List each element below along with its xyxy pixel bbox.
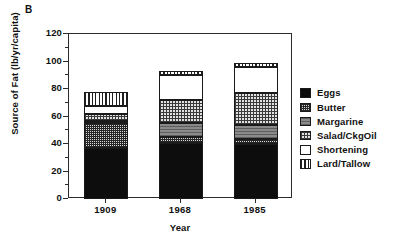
x-tick-mark — [255, 198, 256, 203]
legend-label: Shortening — [317, 145, 368, 155]
panel-letter: B — [25, 5, 32, 15]
bar-segment-salad-ckgoil — [159, 100, 203, 123]
bar-segment-lard-tallow — [159, 71, 203, 75]
x-tick-mark — [105, 198, 106, 203]
x-tick-label: 1985 — [225, 205, 285, 215]
y-tick-label: 40 — [0, 138, 62, 148]
bar-segment-salad-ckgoil — [234, 93, 278, 125]
legend-label: Lard/Tallow — [317, 159, 370, 169]
bar-segment-butter — [159, 137, 203, 143]
plot-area — [68, 33, 292, 198]
bar-segment-shortening — [234, 67, 278, 93]
bar-segment-eggs — [159, 143, 203, 199]
bar-segment-eggs — [234, 144, 278, 199]
y-tick-label: 80 — [0, 83, 62, 93]
legend-item: Salad/CkgOil — [300, 129, 392, 143]
legend-swatch-lard-tallow — [300, 159, 311, 169]
bar-1968 — [159, 34, 203, 199]
legend-item: Shortening — [300, 143, 392, 157]
bar-segment-lard-tallow — [84, 92, 128, 106]
x-tick-mark — [180, 198, 181, 203]
bar-segment-eggs — [84, 148, 128, 199]
legend-swatch-margarine — [300, 117, 311, 127]
legend-label: Margarine — [317, 117, 363, 127]
legend-label: Butter — [317, 103, 346, 113]
legend-item: Lard/Tallow — [300, 157, 392, 171]
legend-item: Eggs — [300, 86, 392, 100]
legend-swatch-butter — [300, 103, 311, 113]
y-tick-mark — [63, 198, 68, 199]
chart-legend: EggsButterMargarineSalad/CkgOilShortenin… — [300, 86, 392, 171]
bar-segment-salad-ckgoil — [84, 114, 128, 121]
legend-item: Margarine — [300, 114, 392, 128]
legend-label: Eggs — [317, 88, 341, 98]
bar-segment-shortening — [84, 106, 128, 114]
legend-item: Butter — [300, 100, 392, 114]
bar-segment-margarine — [159, 123, 203, 137]
y-tick-label: 120 — [0, 28, 62, 38]
bar-1909 — [84, 34, 128, 199]
bar-1985 — [234, 34, 278, 199]
bar-segment-shortening — [159, 75, 203, 100]
legend-swatch-eggs — [300, 88, 311, 98]
bar-segment-margarine — [234, 125, 278, 139]
y-tick-label: 0 — [0, 193, 62, 203]
x-tick-label: 1909 — [75, 205, 135, 215]
bar-segment-lard-tallow — [234, 63, 278, 67]
y-tick-label: 60 — [0, 111, 62, 121]
bar-segment-butter — [234, 139, 278, 145]
y-tick-label: 100 — [0, 56, 62, 66]
bar-segment-margarine — [84, 121, 128, 124]
x-tick-label: 1968 — [150, 205, 210, 215]
legend-swatch-salad-ckgoil — [300, 131, 311, 141]
chart-figure: B Source of Fat (lb/yr/capita) 020406080… — [0, 0, 395, 241]
bar-segment-butter — [84, 123, 128, 148]
legend-label: Salad/CkgOil — [317, 131, 377, 141]
legend-swatch-shortening — [300, 145, 311, 155]
y-tick-label: 20 — [0, 166, 62, 176]
x-axis-title: Year — [68, 222, 292, 233]
